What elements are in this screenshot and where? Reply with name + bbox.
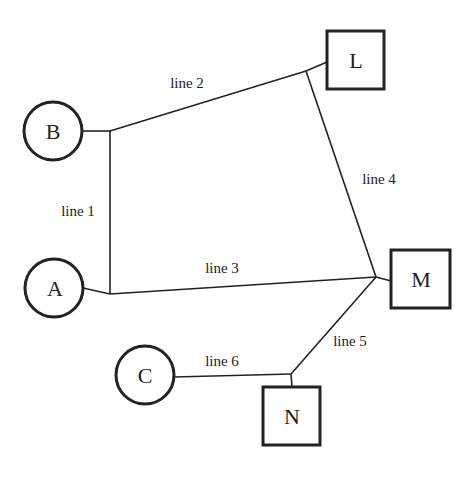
node-label-c: C bbox=[138, 363, 153, 388]
line-6 bbox=[174, 374, 291, 377]
node-a: A bbox=[25, 259, 83, 317]
edge-label-line-3: line 3 bbox=[205, 260, 239, 276]
edge-label-line-4: line 4 bbox=[362, 171, 396, 187]
node-label-l: L bbox=[349, 48, 362, 73]
edge-label-line-5: line 5 bbox=[333, 333, 367, 349]
node-label-m: M bbox=[411, 267, 431, 292]
node-label-n: N bbox=[284, 404, 300, 429]
node-b: B bbox=[24, 102, 82, 160]
stub-n bbox=[291, 374, 292, 387]
stub-l bbox=[306, 62, 327, 71]
edge-label-line-1: line 1 bbox=[61, 203, 95, 219]
node-label-a: A bbox=[47, 276, 63, 301]
network-diagram: line 1 line 2 line 3 line 4 line 5 line … bbox=[0, 0, 474, 478]
edge-label-line-6: line 6 bbox=[205, 353, 239, 369]
line-5 bbox=[291, 277, 376, 374]
line-2 bbox=[110, 71, 306, 131]
line-3 bbox=[110, 277, 376, 294]
node-label-b: B bbox=[46, 119, 61, 144]
node-n: N bbox=[263, 387, 320, 445]
edge-label-line-2: line 2 bbox=[170, 75, 204, 91]
node-l: L bbox=[327, 31, 384, 89]
stub-a bbox=[83, 288, 110, 294]
stub-m bbox=[376, 277, 391, 281]
node-c: C bbox=[116, 346, 174, 404]
node-m: M bbox=[391, 250, 450, 308]
edge-labels: line 1 line 2 line 3 line 4 line 5 line … bbox=[61, 75, 396, 369]
